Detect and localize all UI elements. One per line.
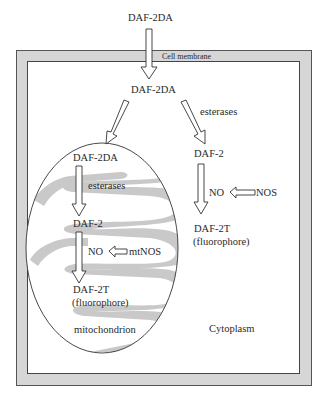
- cyto-daf2da-label: DAF-2DA: [131, 84, 176, 96]
- mito-daf2da-label: DAF-2DA: [73, 152, 118, 164]
- mito-daf2t-label: DAF-2T: [73, 284, 109, 296]
- cyto-fluorophore-label: (fluorophore): [193, 236, 250, 248]
- diagram-canvas: DAF-2DA Cell membrane DAF-2DA esterases …: [0, 0, 326, 396]
- mito-daf2-label: DAF-2: [73, 218, 103, 230]
- mito-esterases-label: esterases: [88, 180, 125, 192]
- cyto-no-label: NO: [209, 187, 224, 199]
- top-daf2da-label: DAF-2DA: [128, 12, 173, 24]
- mito-mtnos-label: mtNOS: [129, 246, 161, 258]
- mitochondrion-label: mitochondrion: [74, 324, 136, 336]
- mito-no-label: NO: [88, 246, 103, 258]
- mito-fluorophore-label: (fluorophore): [72, 297, 129, 309]
- cyto-daf2-label: DAF-2: [194, 148, 224, 160]
- cyto-esterases-label: esterases: [200, 106, 237, 118]
- cyto-daf2t-label: DAF-2T: [194, 223, 230, 235]
- cytoplasm-label: Cytoplasm: [209, 323, 255, 335]
- cell-membrane-label: Cell membrane: [162, 52, 211, 61]
- cyto-nos-label: NOS: [256, 187, 277, 199]
